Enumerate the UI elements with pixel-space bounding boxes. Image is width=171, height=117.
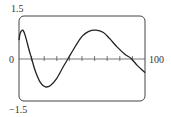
chart: 1.5 −1.5 0 100 [0,0,171,117]
y-min-label: −1.5 [9,104,27,115]
x-max-label: 100 [149,54,164,65]
y-max-label: 1.5 [11,3,24,14]
x-origin-label: 0 [9,54,14,65]
x-axis-ticks [32,56,133,61]
